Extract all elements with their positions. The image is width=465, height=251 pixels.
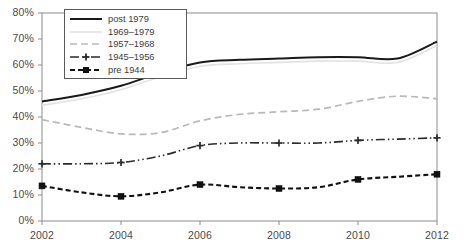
y-axis-tick-label: 80%	[0, 6, 34, 18]
y-axis-tick-label: 10%	[0, 188, 34, 200]
legend-item-3[interactable]: 1957–1968	[69, 38, 182, 51]
legend-label: pre 1944	[108, 64, 145, 76]
chart-container: 0%10%20%30%40%50%60%70%80% 2002200420062…	[0, 0, 465, 251]
legend-label: post 1979	[108, 13, 149, 25]
x-axis-tick-label: 2010	[336, 229, 380, 241]
legend-swatch-solid-faint-icon	[69, 26, 103, 38]
y-axis-tick-label: 30%	[0, 136, 34, 148]
y-axis-tick-label: 0%	[0, 214, 34, 226]
legend-item-5[interactable]: pre 1944	[69, 63, 182, 76]
legend-item-4[interactable]: 1945–1956	[69, 51, 182, 64]
x-axis-tick-label: 2006	[178, 229, 222, 241]
legend-item-1[interactable]: post 1979	[69, 13, 182, 26]
y-axis-tick-label: 20%	[0, 162, 34, 174]
x-axis-tick-label: 2012	[415, 229, 459, 241]
y-axis-tick-label: 60%	[0, 58, 34, 70]
y-axis-tick-label: 50%	[0, 84, 34, 96]
y-axis-tick-label: 40%	[0, 110, 34, 122]
y-axis-tick-label: 70%	[0, 32, 34, 44]
legend-swatch-dashed-icon	[69, 38, 103, 50]
legend-label: 1957–1968	[108, 38, 155, 50]
legend-swatch-dashed-bold-icon	[69, 64, 103, 76]
legend-label: 1969–1979	[108, 26, 155, 38]
series-line-4	[38, 134, 440, 167]
chart-legend[interactable]: post 19791969–19791957–19681945–1956pre …	[64, 9, 187, 79]
legend-item-2[interactable]: 1969–1979	[69, 26, 182, 39]
series-line-5	[39, 171, 440, 199]
legend-swatch-solid-icon	[69, 13, 103, 25]
x-axis-tick-label: 2004	[99, 229, 143, 241]
legend-label: 1945–1956	[108, 51, 155, 63]
series-line-3	[42, 96, 437, 134]
legend-swatch-dash-dot-dot-icon	[69, 51, 103, 63]
x-axis-tick-label: 2002	[20, 229, 64, 241]
x-axis-tick-label: 2008	[257, 229, 301, 241]
